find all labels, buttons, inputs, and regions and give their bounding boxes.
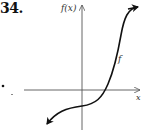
margin-dot: [2, 85, 5, 88]
x-axis-label: x: [136, 93, 141, 102]
curve-f-start-arrow: [128, 7, 138, 9]
curve-f: [47, 7, 138, 124]
margin-tick: [11, 94, 13, 95]
curve-label: f: [117, 54, 123, 64]
function-graph: f(x) x f: [0, 0, 147, 130]
y-axis-label: f(x): [60, 3, 77, 13]
